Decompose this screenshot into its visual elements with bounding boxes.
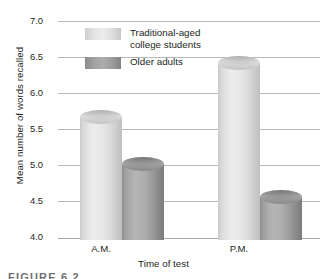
bar-pm-traditional: [218, 56, 260, 240]
figure-caption: FIGURE 6.2: [8, 272, 208, 279]
bar-cap-shadow: [80, 110, 122, 124]
legend-label-traditional: Traditional-aged college students: [130, 27, 201, 50]
y-tick-label-4-0: 4.0: [30, 231, 54, 242]
y-tick-label-5-0: 5.0: [30, 159, 54, 170]
gridline-7-0: [58, 21, 320, 22]
figure-chart: Mean number of words recalled 7.0 6.5 6.…: [0, 0, 327, 279]
bar-body: [122, 164, 164, 240]
legend-label-traditional-line1: Traditional-aged: [130, 27, 201, 39]
chart-legend: Traditional-aged college students Older …: [85, 27, 201, 75]
x-tick-label-pm: P.M.: [218, 243, 260, 254]
y-tick-label-5-5: 5.5: [30, 123, 54, 134]
bar-pm-older: [260, 190, 302, 240]
legend-item-traditional: Traditional-aged college students: [85, 27, 201, 50]
y-tick-label-7-0: 7.0: [30, 15, 54, 26]
legend-item-older: Older adults: [85, 56, 201, 69]
y-tick-label-6-0: 6.0: [30, 87, 54, 98]
bar-am-traditional: [80, 110, 122, 240]
x-tick-label-am: A.M.: [80, 243, 122, 254]
legend-label-traditional-line2: college students: [130, 39, 201, 51]
bar-body: [218, 63, 260, 240]
y-tick-label-6-5: 6.5: [30, 51, 54, 62]
y-axis-title: Mean number of words recalled: [14, 28, 25, 203]
bar-am-older: [122, 157, 164, 240]
y-tick-label-4-5: 4.5: [30, 195, 54, 206]
legend-swatch-older: [85, 57, 121, 69]
legend-label-older: Older adults: [130, 56, 183, 68]
bar-body: [80, 117, 122, 240]
x-axis-title: Time of test: [0, 258, 327, 269]
gridline-6-0: [58, 93, 320, 94]
legend-swatch-traditional: [85, 28, 121, 40]
bar-cap-shadow: [260, 190, 302, 204]
bar-cap-shadow: [218, 56, 260, 70]
bar-cap-shadow: [122, 157, 164, 171]
